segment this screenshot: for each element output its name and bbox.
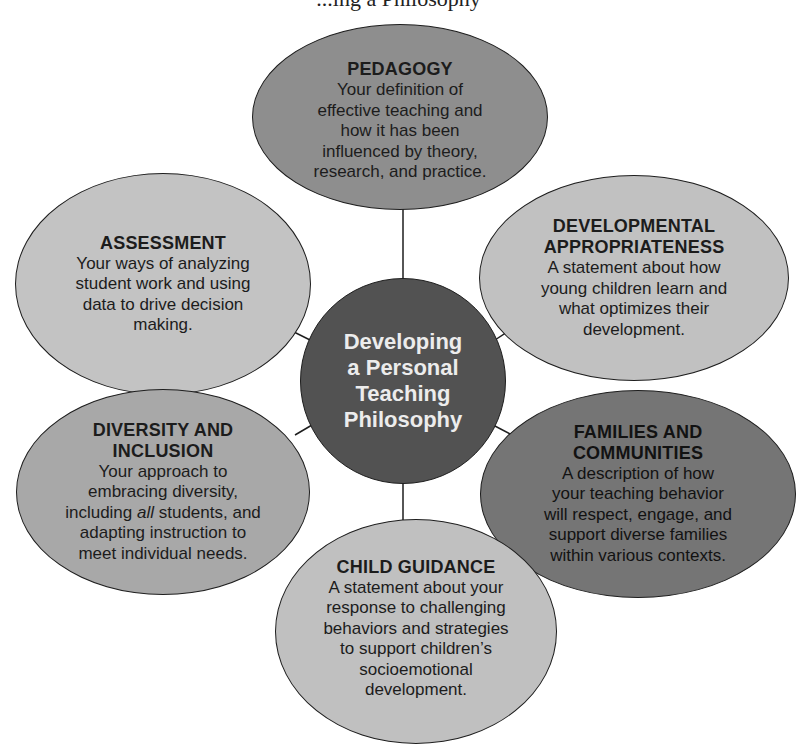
node-pedagogy-title: PEDAGOGY	[347, 59, 453, 80]
node-developmental-appropriateness: DEVELOPMENTAL APPROPRIATENESS A statemen…	[479, 175, 789, 381]
connector-diversity	[295, 425, 312, 435]
node-assessment: ASSESSMENT Your ways of analyzing studen…	[15, 173, 311, 395]
node-assessment-title: ASSESSMENT	[100, 233, 226, 254]
diversity-mixed-line: including all students, and	[65, 503, 261, 524]
node-pedagogy: PEDAGOGY Your definition of effective te…	[252, 24, 548, 210]
node-guidance-title: CHILD GUIDANCE	[337, 557, 496, 578]
center-circle: Developing a Personal Teaching Philosoph…	[300, 278, 506, 484]
node-child-guidance: CHILD GUIDANCE A statement about your re…	[275, 519, 557, 744]
node-diversity-inclusion: DIVERSITY AND INCLUSION Your approach to…	[16, 389, 310, 595]
